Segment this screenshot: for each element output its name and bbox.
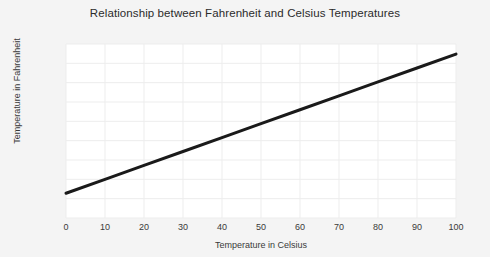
- x-tick-label: 60: [280, 222, 320, 232]
- x-tick-label: 90: [397, 222, 437, 232]
- x-tick-label: 70: [319, 222, 359, 232]
- x-tick-label: 0: [46, 222, 86, 232]
- x-tick-label: 80: [358, 222, 398, 232]
- x-tick-label: 50: [241, 222, 281, 232]
- series-line: [66, 54, 456, 193]
- x-axis-label: Temperature in Celsius: [66, 240, 456, 250]
- x-tick-label: 40: [202, 222, 242, 232]
- y-axis-label: Temperature in Fahrenheit: [12, 11, 22, 171]
- x-tick-label: 10: [85, 222, 125, 232]
- chart-title: Relationship between Fahrenheit and Cels…: [0, 7, 490, 19]
- plot-area: [66, 44, 456, 218]
- x-tick-label: 100: [436, 222, 476, 232]
- x-tick-label: 20: [124, 222, 164, 232]
- x-tick-label: 30: [163, 222, 203, 232]
- chart-figure: Relationship between Fahrenheit and Cels…: [0, 0, 490, 257]
- data-series-line: [66, 44, 456, 218]
